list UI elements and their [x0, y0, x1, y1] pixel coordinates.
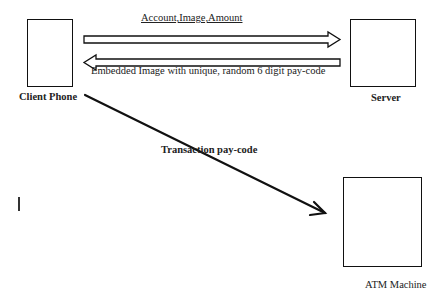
client-to-atm-label: Transaction pay-code — [161, 144, 257, 155]
client-to-server-label: Account,Image,Amount — [141, 12, 242, 23]
client-phone-box — [27, 19, 73, 87]
atm-machine-box — [343, 177, 422, 267]
text-cursor — [18, 197, 20, 211]
arrow-client-to-atm — [85, 95, 325, 215]
client-phone-label: Client Phone — [19, 91, 77, 102]
server-box — [350, 19, 416, 87]
server-to-client-label: Embedded Image with unique, random 6 dig… — [91, 65, 325, 76]
arrow-client-to-server — [84, 32, 340, 47]
atm-machine-label: ATM Machine — [365, 279, 427, 290]
server-label: Server — [371, 92, 401, 103]
